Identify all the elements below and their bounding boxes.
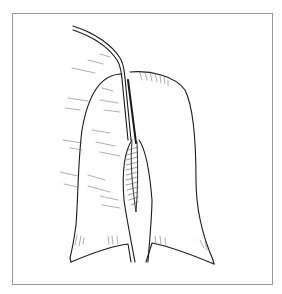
skin-hatching (60, 54, 207, 250)
illustration (0, 0, 282, 294)
right-lobe (130, 72, 214, 264)
left-lobe (70, 74, 131, 262)
